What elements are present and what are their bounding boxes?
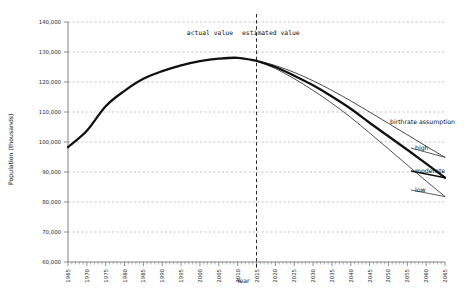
x-tick-label-2015: 2015 — [254, 269, 260, 283]
x-tick-label-2045: 2045 — [367, 269, 373, 283]
x-tick-label-2030: 2030 — [310, 268, 316, 282]
y-tick-label-90000: 90,000 — [42, 169, 61, 175]
x-tick-label-1965: 1965 — [65, 269, 71, 283]
x-tick-label-1990: 1990 — [159, 268, 165, 282]
x-tick-label-2005: 2005 — [216, 269, 222, 283]
y-tick-label-130000: 130,000 — [39, 49, 62, 55]
y-tick-label-140000: 140,000 — [39, 19, 62, 25]
chart-canvas: 140,000130,000120,000110,000100,00090,00… — [0, 0, 475, 296]
population-projection-chart: 140,000130,000120,000110,000100,00090,00… — [0, 0, 475, 296]
legend-title: birthrate assumption — [390, 118, 455, 126]
y-tick-label-120000: 120,000 — [39, 79, 62, 85]
x-tick-label-1980: 1980 — [122, 268, 128, 282]
x-tick-label-1995: 1995 — [178, 269, 184, 283]
x-tick-label-1985: 1985 — [140, 269, 146, 283]
annotation-estimated-value: estimated value — [242, 29, 300, 37]
x-tick-label-1975: 1975 — [103, 269, 109, 283]
legend-item-high: high — [415, 144, 429, 152]
x-tick-label-2055: 2055 — [404, 269, 410, 283]
x-tick-label-2040: 2040 — [348, 268, 354, 282]
x-tick-labels-group: 1965197019751980198519901995200020052010… — [65, 268, 448, 282]
x-tick-label-2060: 2060 — [423, 268, 429, 282]
x-tick-label-1970: 1970 — [84, 268, 90, 282]
legend-item-moderate: moderate — [415, 167, 445, 174]
x-axis-title: Year — [235, 277, 250, 284]
x-tick-label-2020: 2020 — [272, 268, 278, 282]
annotation-actual-value: actual value — [187, 29, 233, 37]
y-axis-title: Population (thousands) — [7, 114, 15, 185]
y-tick-label-110000: 110,000 — [39, 109, 62, 115]
x-tick-label-2000: 2000 — [197, 268, 203, 282]
x-tick-label-2065: 2065 — [442, 269, 448, 283]
y-tick-label-60000: 60,000 — [42, 259, 61, 265]
y-tick-label-80000: 80,000 — [42, 199, 61, 205]
legend-item-low: low — [415, 186, 426, 193]
x-tick-label-2035: 2035 — [329, 269, 335, 283]
x-tick-label-2050: 2050 — [385, 268, 391, 282]
y-tick-label-70000: 70,000 — [42, 229, 61, 235]
y-tick-label-100000: 100,000 — [39, 139, 62, 145]
x-tick-label-2025: 2025 — [291, 269, 297, 283]
